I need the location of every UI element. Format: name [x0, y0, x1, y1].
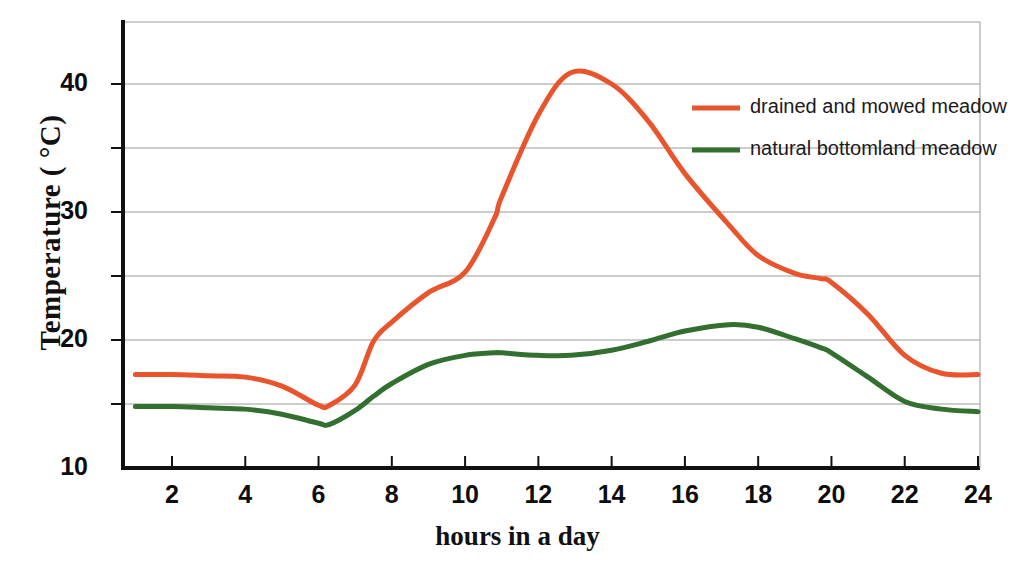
x-tick-label-8: 8: [362, 480, 422, 509]
x-tick-label-20: 20: [801, 480, 861, 509]
x-tick-label-22: 22: [875, 480, 935, 509]
axis-lines: [121, 20, 980, 468]
x-tick-label-12: 12: [508, 480, 568, 509]
legend-label-0: drained and mowed meadow: [750, 95, 1007, 118]
x-tick-label-2: 2: [142, 480, 202, 509]
gridlines: [123, 22, 980, 404]
x-tick-label-16: 16: [655, 480, 715, 509]
chart-figure: Temperature ( °C) hours in a day 1020304…: [0, 0, 1035, 581]
y-tick-label-10: 10: [28, 452, 88, 481]
y-tick-label-20: 20: [28, 324, 88, 353]
y-tick-label-30: 30: [28, 196, 88, 225]
x-tick-label-10: 10: [435, 480, 495, 509]
x-tick-label-18: 18: [728, 480, 788, 509]
legend-swatches: [692, 108, 740, 150]
x-tick-label-4: 4: [215, 480, 275, 509]
y-tick-label-40: 40: [28, 68, 88, 97]
x-tick-label-14: 14: [582, 480, 642, 509]
x-tick-label-6: 6: [289, 480, 349, 509]
data-series: [135, 71, 978, 426]
legend-label-1: natural bottomland meadow: [750, 137, 997, 160]
x-tick-label-24: 24: [948, 480, 1008, 509]
